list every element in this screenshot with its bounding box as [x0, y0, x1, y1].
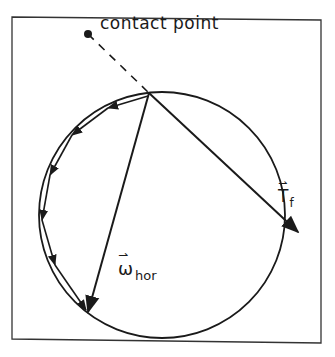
omega-hor-label: ⇀ ωhor	[118, 258, 155, 279]
omega-subscript: hor	[135, 268, 157, 283]
precession-circle	[39, 92, 285, 338]
vector-arrow-icon: ⇀	[278, 177, 287, 190]
torque-vector-arrow	[149, 93, 298, 232]
contact-point-label: contact point	[100, 13, 219, 33]
torque-subscript: f	[289, 196, 293, 210]
contact-point-dot	[84, 30, 92, 38]
frame-border	[12, 17, 321, 343]
contact-dashed-line	[88, 34, 149, 93]
torque-label: ⇀ Tf	[278, 186, 293, 206]
vector-arrow-icon: ⇀	[118, 248, 128, 262]
